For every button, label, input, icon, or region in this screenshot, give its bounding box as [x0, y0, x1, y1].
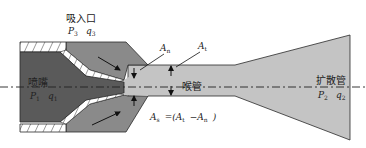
nozzle-wall-lower-hatch	[20, 124, 66, 132]
nozzle-wall-upper-hatch	[20, 42, 66, 52]
area-nozzle-label: An	[159, 43, 171, 54]
suction-area-formula: As =(At −An )	[149, 107, 217, 126]
area-throat-label: At	[197, 41, 208, 52]
nozzle-label: 喷嘴	[28, 77, 48, 88]
jet-pump-diagram: 吸入口 P3 q3 喷嘴 P1 q1 An At 喉管 扩散管 P2 q2 As…	[0, 0, 366, 148]
throat-label: 喉管	[182, 80, 202, 92]
